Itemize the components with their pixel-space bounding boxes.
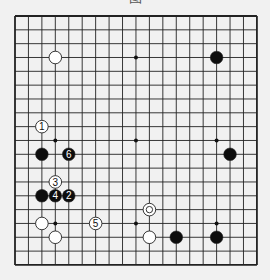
white-stone-3: 3 <box>49 176 62 189</box>
black-stone-icon <box>170 231 183 244</box>
white-stone-icon <box>36 217 49 230</box>
black-stone-2: 2 <box>62 189 75 202</box>
black-stone-4: 4 <box>49 189 62 202</box>
go-board: 163425 <box>0 0 270 280</box>
move-number: 2 <box>66 190 72 201</box>
star-point-icon <box>134 138 138 142</box>
white-stone <box>143 231 156 244</box>
black-stone-icon <box>36 189 49 202</box>
white-stone <box>49 231 62 244</box>
star-point-icon <box>215 221 219 225</box>
star-point-icon <box>134 55 138 59</box>
move-number: 3 <box>53 177 59 188</box>
black-stone-icon <box>210 231 223 244</box>
black-stone <box>36 148 49 161</box>
white-stone <box>49 51 62 64</box>
black-stone <box>210 231 223 244</box>
white-stone-5: 5 <box>89 217 102 230</box>
black-stone <box>224 148 237 161</box>
star-point-icon <box>53 221 57 225</box>
black-stone <box>170 231 183 244</box>
move-number: 5 <box>93 218 99 229</box>
white-stone-icon <box>49 231 62 244</box>
black-stone-icon <box>210 51 223 64</box>
star-point-icon <box>53 138 57 142</box>
black-stone-icon <box>224 148 237 161</box>
white-stone-icon <box>143 231 156 244</box>
white-stone <box>143 203 156 216</box>
move-number: 4 <box>53 190 59 201</box>
white-stone-icon <box>49 51 62 64</box>
star-point-icon <box>134 221 138 225</box>
move-number: 1 <box>39 121 45 132</box>
black-stone <box>36 189 49 202</box>
black-stone-6: 6 <box>62 148 75 161</box>
white-stone-1: 1 <box>36 120 49 133</box>
star-point-icon <box>215 138 219 142</box>
black-stone <box>210 51 223 64</box>
black-stone-icon <box>36 148 49 161</box>
move-number: 6 <box>66 149 72 160</box>
white-stone-icon <box>143 203 156 216</box>
white-stone <box>36 217 49 230</box>
